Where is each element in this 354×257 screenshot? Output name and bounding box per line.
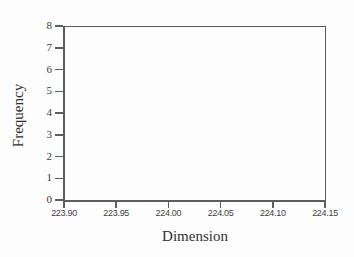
y-tick-mark [55,178,63,180]
y-tick-label: 8 [12,20,52,31]
chart-figure: Frequency 012345678 223.90223.95224.0022… [0,0,354,257]
y-tick-label: 2 [12,151,52,162]
x-axis-title: Dimension [64,228,326,245]
y-tick-mark [55,69,63,71]
bars-layer [64,26,325,200]
y-tick-mark [55,156,63,158]
y-tick-label: 1 [12,172,52,183]
x-tick-label: 223.90 [34,209,94,218]
x-tick-label: 224.05 [191,209,251,218]
y-tick-mark [55,25,63,27]
y-tick-mark [55,47,63,49]
x-tick-mark [220,201,222,208]
x-tick-label: 224.10 [243,209,303,218]
y-tick-mark [55,134,63,136]
y-tick-mark [55,91,63,93]
x-tick-mark [324,201,326,208]
y-tick-label: 4 [12,107,52,118]
y-tick-label: 0 [12,194,52,205]
y-tick-label: 6 [12,64,52,75]
x-tick-label: 224.15 [295,209,354,218]
y-tick-label: 3 [12,129,52,140]
y-tick-label: 7 [12,42,52,53]
x-tick-mark [115,201,117,208]
x-tick-mark [63,201,65,208]
x-tick-label: 223.95 [86,209,146,218]
y-tick-mark [55,112,63,114]
y-tick-mark [55,199,63,201]
y-tick-label: 5 [12,85,52,96]
x-tick-mark [272,201,274,208]
x-tick-label: 224.00 [138,209,198,218]
x-tick-mark [168,201,170,208]
x-axis-line [63,200,325,202]
